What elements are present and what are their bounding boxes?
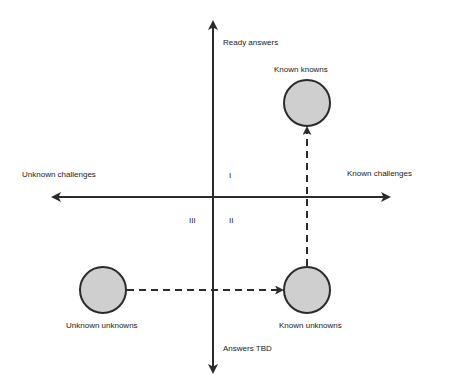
node-known-knowns bbox=[284, 80, 330, 126]
quadrant-label-ii: II bbox=[229, 217, 233, 225]
node-known-unknowns bbox=[284, 267, 330, 313]
node-label-unknown-unknowns: Unknown unknowns bbox=[66, 322, 138, 330]
node-unknown-unknowns bbox=[80, 267, 126, 313]
node-label-known-knowns: Known knowns bbox=[274, 66, 328, 74]
axis-label-unknown-challenges: Unknown challenges bbox=[22, 171, 96, 179]
node-label-known-unknowns: Known unknowns bbox=[279, 322, 342, 330]
quadrant-label-iii: III bbox=[189, 217, 196, 225]
axis-label-answers-tbd: Answers TBD bbox=[223, 345, 272, 353]
quadrant-label-i: I bbox=[229, 172, 231, 180]
diagram-canvas bbox=[0, 0, 449, 392]
axis-label-known-challenges: Known challenges bbox=[347, 170, 412, 178]
axis-label-ready-answers: Ready answers bbox=[223, 39, 278, 47]
